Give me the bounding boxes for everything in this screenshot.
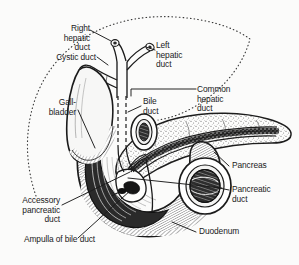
label-bile-duct: Bile duct <box>143 97 175 116</box>
anatomical-figure: Right hepatic duct Left hepatic duct Cys… <box>0 0 299 265</box>
label-ampulla-of-bile-duct: Ampulla of bile duct <box>24 235 144 245</box>
label-accessory-pancreatic-duct: Accessory pancreatic duct <box>2 196 60 225</box>
right-hepatic-duct <box>111 40 126 62</box>
label-cystic-duct: Cystic duct <box>30 53 96 63</box>
label-common-hepatic-duct: Common hepatic duct <box>197 85 255 114</box>
label-pancreatic-duct: Pancreatic duct <box>232 185 294 204</box>
label-pancreas: Pancreas <box>232 161 290 171</box>
left-hepatic-duct <box>127 42 155 70</box>
label-gallbladder: Gall- bladder <box>18 98 76 117</box>
label-left-hepatic-duct: Left hepatic duct <box>156 41 210 70</box>
leader-right-hepatic-duct <box>90 30 111 41</box>
leader-cystic-duct <box>97 57 108 65</box>
label-duodenum: Duodenum <box>199 227 259 237</box>
bile-duct-cut-section <box>131 114 157 150</box>
leader-common-hepatic-duct <box>131 89 196 96</box>
leader-bile-duct <box>128 106 141 112</box>
label-right-hepatic-duct: Right hepatic duct <box>33 24 90 53</box>
